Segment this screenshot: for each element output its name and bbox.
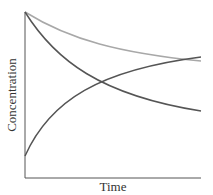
light-decay-curve — [25, 12, 201, 61]
y-axis-label: Concentration — [4, 58, 20, 132]
concentration-time-chart — [0, 0, 213, 195]
x-axis-label: Time — [25, 179, 201, 195]
